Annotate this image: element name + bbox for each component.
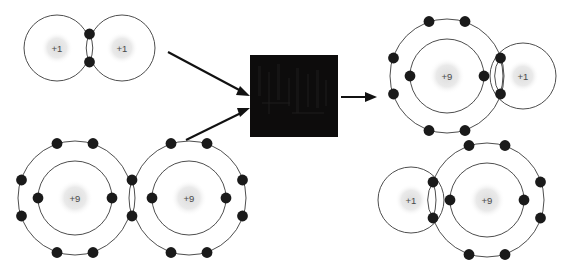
shared-electron [127,175,138,186]
diagram-canvas: +1 +1 +9 [0,0,563,274]
outer-electron [388,89,399,100]
shared-electron [495,89,506,100]
outer-electron [166,247,177,258]
outer-electron [424,16,435,27]
outer-electron [388,53,399,64]
fluorine-atom: +9 [430,140,546,260]
outer-electron [16,175,27,186]
inner-electron [445,195,456,206]
outer-electron [166,138,177,149]
outer-electron [535,177,546,188]
inner-electron [221,193,232,204]
shared-electron-pair [127,175,138,222]
outer-electron [464,140,475,151]
outer-electron [88,247,99,258]
outer-electron [464,249,475,260]
redacted-reaction-box[interactable] [250,55,338,137]
arrow-hydrogen-to-box [168,52,250,96]
shared-electron [428,213,439,224]
outer-electron [52,247,63,258]
outer-electron [424,125,435,136]
outer-electron [88,138,99,149]
shared-electron-pair [428,177,439,224]
hydrogen-atom-right: +1 [89,15,155,81]
outer-electron [460,125,471,136]
inner-electron [479,71,490,82]
shared-electron-pair [84,29,95,68]
outer-electron [535,213,546,224]
fluorine-atom: +9 [388,16,504,136]
outer-electron [500,249,511,260]
nucleus-charge-label: +1 [51,43,62,54]
outer-electron [52,138,63,149]
arrow-box-to-product [341,92,377,102]
shared-electron [495,53,506,64]
shared-electron [428,177,439,188]
nucleus-charge-label: +1 [517,71,528,82]
outer-electron [16,211,27,222]
inner-electron [147,193,158,204]
hydrogen-fluoride-molecule-bottom: +1 +9 [378,140,546,260]
inner-electron [519,195,530,206]
outer-electron [202,138,213,149]
nucleus-charge-label: +9 [481,195,492,206]
fluorine-molecule: +9 +9 [16,138,248,258]
nucleus-charge-label: +9 [69,193,80,204]
nucleus-charge-label: +9 [183,193,194,204]
shared-electron [84,57,95,68]
nucleus-charge-label: +1 [405,195,416,206]
outer-electron [237,175,248,186]
outer-electron [500,140,511,151]
fluorine-atom-right: +9 [132,138,248,258]
inner-electron [405,71,416,82]
diagram-svg: +1 +1 +9 [0,0,563,274]
shared-electron [127,211,138,222]
shared-electron [84,29,95,40]
nucleus-charge-label: +9 [441,71,452,82]
hydrogen-molecule: +1 +1 [24,15,155,81]
nucleus-charge-label: +1 [116,43,127,54]
outer-electron [460,16,471,27]
inner-electron [107,193,118,204]
fluorine-atom-left: +9 [16,138,132,258]
hydrogen-atom-left: +1 [24,15,90,81]
arrow-fluorine-to-box [186,108,250,140]
outer-electron [237,211,248,222]
hydrogen-fluoride-molecule-top: +9 +1 [388,16,556,136]
inner-electron [33,193,44,204]
outer-electron [202,247,213,258]
